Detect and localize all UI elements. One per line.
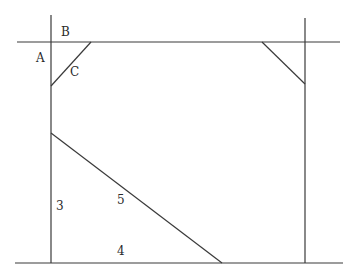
label-b: B (61, 25, 70, 39)
corner-diagonal-right (262, 42, 305, 84)
label-a: A (35, 51, 45, 65)
label-5: 5 (117, 193, 125, 207)
geometry-diagram: B A C 3 5 4 (0, 0, 363, 277)
hypotenuse-line (51, 133, 222, 263)
label-4: 4 (117, 244, 125, 258)
corner-diagonal-left (51, 42, 91, 86)
label-3: 3 (56, 199, 64, 213)
label-c: C (70, 65, 79, 79)
